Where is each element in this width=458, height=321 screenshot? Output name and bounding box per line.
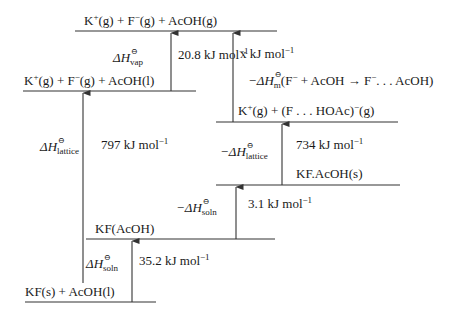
enthalpy-value-x: x kJ mol−1 (240, 46, 294, 61)
enthalpy-value-soln-neg: 3.1 kJ mol−1 (248, 196, 312, 211)
value-text: 20.8 kJ mol (178, 47, 239, 62)
delta-h-symbol: ΔH (40, 139, 57, 154)
enthalpy-label-lattice: ΔH⊖lattice (40, 139, 79, 156)
enthalpy-label-soln-neg: −ΔH⊖soln (176, 200, 217, 217)
value-text: 35.2 kJ mol (139, 253, 200, 268)
label-part: (g) + F (98, 13, 134, 28)
level-label-gas-liquid: K+(g) + F−(g) + AcOH(l) (24, 73, 154, 88)
label-part: (g) + AcOH(g) (140, 13, 217, 28)
superscript: −1 (159, 136, 169, 146)
enthalpy-value-lattice-complex: 734 kJ mol−1 (296, 137, 363, 152)
level-label-top: K+(g) + F−(g) + AcOH(g) (84, 13, 217, 28)
standard-state-symbol: ⊖lattice (57, 139, 79, 156)
reaction-part: + AcOH → F (297, 73, 371, 88)
enthalpy-value-lattice: 797 kJ mol−1 (101, 137, 168, 152)
label-part: (g) + AcOH(l) (80, 73, 154, 88)
value-text: 797 kJ mol (101, 137, 159, 152)
level-label-kf-solution: KF(AcOH) (95, 221, 154, 236)
subscript: lattice (57, 146, 79, 156)
value-text: 3.1 kJ mol (248, 196, 303, 211)
reaction-part: . . . AcOH) (376, 73, 433, 88)
level-label-bottom: KF(s) + AcOH(l) (25, 284, 115, 299)
subscript: soln (103, 263, 118, 273)
standard-state-symbol: ⊖soln (202, 200, 217, 217)
label-part: (g) + (F . . . HOAc) (252, 103, 354, 118)
standard-state-symbol: ⊖soln (103, 256, 118, 273)
value-text: x kJ mol (240, 46, 285, 61)
superscript: −1 (354, 136, 364, 146)
label-part: (g) (359, 103, 374, 118)
superscript: −1 (200, 252, 210, 262)
delta-h-symbol: ΔH (113, 50, 130, 65)
subscript: soln (202, 207, 217, 217)
thermochemical-cycle-diagram: K+(g) + F−(g) + AcOH(g) K+(g) + F−(g) + … (0, 0, 458, 321)
subscript: vap (130, 57, 143, 67)
enthalpy-label-soln: ΔH⊖soln (86, 256, 118, 273)
standard-state-symbol: ⊖vap (130, 50, 143, 67)
enthalpy-value-soln: 35.2 kJ mol−1 (139, 253, 210, 268)
delta-h-symbol: −ΔH (220, 144, 246, 159)
enthalpy-label-vap: ΔH⊖vap (113, 50, 143, 67)
level-label-kf-acoh-solid: KF.AcOH(s) (296, 166, 362, 181)
subscript: m (274, 80, 281, 90)
label-part: K (24, 73, 33, 88)
delta-h-symbol: ΔH (86, 256, 103, 271)
subscript: lattice (246, 151, 268, 161)
enthalpy-value-vap: 20.8 kJ mol−1 (178, 47, 249, 62)
label-part: K (84, 13, 93, 28)
delta-h-symbol: −ΔH (248, 73, 274, 88)
label-part: (g) + F (38, 73, 74, 88)
delta-h-symbol: −ΔH (176, 200, 202, 215)
value-text: 734 kJ mol (296, 137, 354, 152)
superscript: −1 (303, 195, 313, 205)
standard-state-symbol: ⊖lattice (246, 144, 268, 161)
superscript: −1 (285, 45, 295, 55)
level-label-complex-gas: K+(g) + (F . . . HOAc)−(g) (238, 103, 374, 118)
label-part: K (238, 103, 247, 118)
enthalpy-annotation-mixing: −ΔH⊖m(F− + AcOH → F−. . . AcOH) (248, 73, 433, 90)
enthalpy-label-lattice-complex: −ΔH⊖lattice (220, 144, 268, 161)
standard-state-symbol: ⊖m (274, 73, 281, 90)
reaction-part: (F (281, 73, 293, 88)
